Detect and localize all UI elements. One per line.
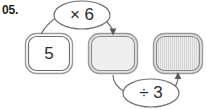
answer-box-2-inner-fill [157,37,200,71]
flow-diagram: 5 × 6 ÷ 3 [0,0,207,109]
worksheet-problem-container: 05. 5 [0,0,207,109]
answer-box-1-inner-fill [92,37,135,71]
answer-box-1[interactable] [89,34,138,74]
answer-box-2[interactable] [154,34,203,74]
divide-operation-label: ÷ 3 [139,83,163,102]
start-value-text: 5 [44,44,53,63]
multiply-operation-label: × 6 [70,5,94,24]
start-value-box[interactable]: 5 [26,34,73,74]
multiply-operation-node[interactable]: × 6 [54,1,110,29]
divide-operation-node[interactable]: ÷ 3 [123,79,179,107]
connector-start-to-multiply [41,17,57,34]
